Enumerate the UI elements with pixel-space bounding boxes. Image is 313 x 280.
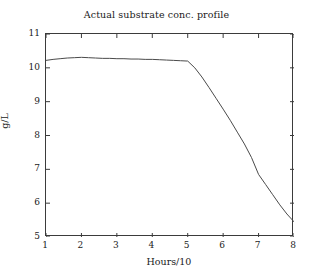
x-tick-label: 1 (42, 240, 48, 250)
y-tick-label: 9 (34, 96, 40, 106)
y-tick-label: 8 (34, 130, 40, 140)
x-tick-label: 4 (148, 240, 154, 250)
chart-title: Actual substrate conc. profile (0, 9, 313, 20)
chart-figure: Actual substrate conc. profile g/L 11 10… (0, 0, 313, 280)
y-tick-label: 5 (34, 231, 40, 241)
plot-svg (46, 34, 294, 237)
y-tick-label: 6 (34, 197, 40, 207)
x-tick-label: 7 (255, 240, 261, 250)
tick-marks (46, 34, 294, 237)
x-axis-tick-labels: 1 2 3 4 5 6 7 8 (45, 240, 293, 254)
y-tick-label: 10 (29, 62, 40, 72)
x-tick-label: 3 (113, 240, 119, 250)
y-tick-label: 7 (34, 163, 40, 173)
x-tick-label: 8 (290, 240, 296, 250)
x-axis-label: Hours/10 (45, 256, 293, 267)
x-tick-label: 5 (184, 240, 190, 250)
x-tick-label: 6 (219, 240, 225, 250)
y-axis-tick-labels: 11 10 9 8 7 6 5 (0, 33, 40, 236)
plot-area (45, 33, 293, 236)
data-series-line (46, 57, 294, 221)
x-tick-label: 2 (78, 240, 84, 250)
y-tick-label: 11 (29, 28, 40, 38)
